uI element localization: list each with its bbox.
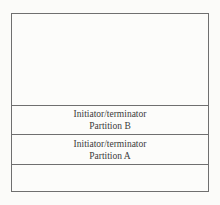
section-partition-b: Initiator/terminator Partition B (12, 105, 208, 134)
section-top-empty (12, 14, 208, 105)
partition-b-role-label: Initiator/terminator (74, 108, 147, 120)
partition-b-name-label: Partition B (89, 120, 130, 132)
section-partition-a: Initiator/terminator Partition A (12, 134, 208, 164)
partition-a-name-label: Partition A (89, 150, 130, 162)
partition-a-role-label: Initiator/terminator (74, 138, 147, 150)
partition-layout-box: Initiator/terminator Partition B Initiat… (11, 13, 209, 192)
section-bottom-empty (12, 164, 208, 191)
